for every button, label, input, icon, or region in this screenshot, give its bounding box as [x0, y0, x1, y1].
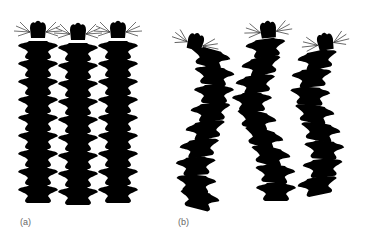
- panel-b-worms: [170, 19, 350, 214]
- worm-b3: [289, 29, 350, 199]
- panel-b-label: (b): [178, 217, 189, 227]
- worm-a2: [54, 23, 102, 205]
- panel-a-label: (a): [20, 217, 31, 227]
- worm-b1: [170, 27, 235, 214]
- worm-a3: [94, 21, 142, 203]
- worm-b2: [232, 19, 296, 201]
- worm-a1: [14, 21, 62, 203]
- panel-a-worms: [14, 21, 142, 205]
- figure-canvas: [0, 0, 377, 242]
